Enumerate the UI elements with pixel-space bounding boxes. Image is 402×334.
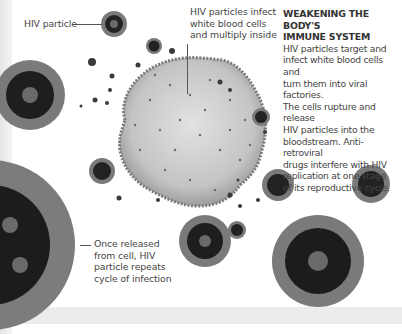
body-line: The cells rupture and release bbox=[283, 101, 401, 124]
info-sidebar: WEAKENING THE BODY'S IMMUNE SYSTEM HIV p… bbox=[283, 8, 401, 194]
body-line: replication at one stage bbox=[283, 170, 401, 182]
label-line: Once released bbox=[94, 238, 172, 250]
label-hiv-particle: HIV particle bbox=[24, 18, 77, 30]
label-line: from cell, HIV bbox=[94, 250, 172, 262]
virus-particle-mid-left bbox=[89, 158, 115, 184]
virus-particle-left bbox=[0, 60, 65, 130]
virus-particle-right-of-cell bbox=[252, 108, 270, 126]
white-blood-cell bbox=[119, 58, 265, 206]
leader-line-released bbox=[80, 245, 91, 246]
sidebar-heading: WEAKENING THE BODY'S IMMUNE SYSTEM bbox=[283, 8, 401, 43]
label-text: HIV particle bbox=[24, 18, 77, 29]
heading-line: WEAKENING THE BODY'S bbox=[283, 8, 401, 31]
label-line: HIV particles infect bbox=[190, 6, 277, 18]
virus-particle-big-right bbox=[272, 215, 364, 307]
body-line: of its reproductive cycle. bbox=[283, 182, 401, 194]
sidebar-body: HIV particles target and infect white bl… bbox=[283, 43, 401, 194]
label-released: Once released from cell, HIV particle re… bbox=[94, 238, 172, 284]
label-line: and multiply inside bbox=[190, 29, 277, 41]
label-line: particle repeats bbox=[94, 261, 172, 273]
virus-particle-bottom-small bbox=[228, 221, 246, 239]
virus-particle-top bbox=[101, 11, 127, 37]
leader-line-infect bbox=[187, 44, 188, 94]
virus-particle-small-top bbox=[146, 38, 162, 54]
virus-particle-bottom-mid bbox=[179, 215, 231, 267]
body-line: HIV particles into the bbox=[283, 124, 401, 136]
label-line: white blood cells bbox=[190, 18, 277, 30]
body-line: drugs interfere with HIV bbox=[283, 159, 401, 171]
body-line: turn them into viral factories. bbox=[283, 78, 401, 101]
label-infect: HIV particles infect white blood cells a… bbox=[190, 6, 277, 41]
virus-particle-big-left bbox=[0, 160, 75, 330]
body-line: bloodstream. Anti-retroviral bbox=[283, 136, 401, 159]
body-line: HIV particles target and bbox=[283, 43, 401, 55]
heading-line: IMMUNE SYSTEM bbox=[283, 31, 401, 43]
label-line: cycle of infection bbox=[94, 273, 172, 285]
body-line: infect white blood cells and bbox=[283, 54, 401, 77]
